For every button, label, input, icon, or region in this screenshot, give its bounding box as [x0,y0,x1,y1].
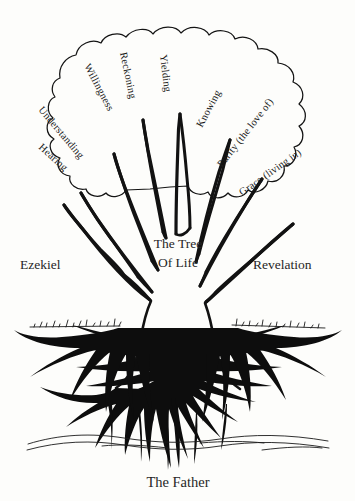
label-the-father: The Father [146,474,209,490]
branch-grace-tip [206,292,216,302]
label-tree-title-line1: The Tree [154,236,202,251]
label-revelation: Revelation [253,257,312,272]
label-ezekiel: Ezekiel [20,257,61,272]
branch-yielding-tip [176,228,190,235]
label-tree-title-line2: Of Life [158,255,198,270]
tree-of-life-diagram-page: Hearing Understanding Willingness Reckon… [0,0,355,501]
tree-of-life-illustration: Hearing Understanding Willingness Reckon… [0,0,355,501]
water-ripple-far-right [262,447,322,450]
